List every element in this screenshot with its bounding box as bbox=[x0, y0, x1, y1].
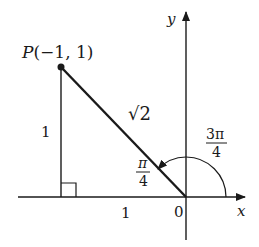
x-axis-label: x bbox=[237, 202, 246, 220]
reference-angle-label: π 4 bbox=[136, 155, 150, 189]
vertical-leg-label: 1 bbox=[41, 123, 51, 141]
svg-text:π: π bbox=[137, 155, 148, 171]
hypotenuse bbox=[61, 67, 186, 197]
diagram-canvas: P(−1, 1) y x 0 1 1 √2 π 4 3π 4 bbox=[0, 0, 259, 247]
origin-label: 0 bbox=[174, 203, 184, 221]
hypotenuse-label: √2 bbox=[128, 103, 151, 124]
point-p-dot bbox=[58, 64, 65, 71]
svg-text:4: 4 bbox=[212, 144, 221, 160]
svg-text:4: 4 bbox=[139, 173, 148, 189]
horizontal-leg-label: 1 bbox=[121, 204, 131, 222]
y-axis-label: y bbox=[166, 10, 176, 28]
right-angle-marker bbox=[61, 183, 76, 197]
standard-angle-label: 3π 4 bbox=[206, 126, 227, 160]
svg-text:3π: 3π bbox=[206, 126, 224, 142]
point-p-label: P(−1, 1) bbox=[21, 42, 93, 62]
